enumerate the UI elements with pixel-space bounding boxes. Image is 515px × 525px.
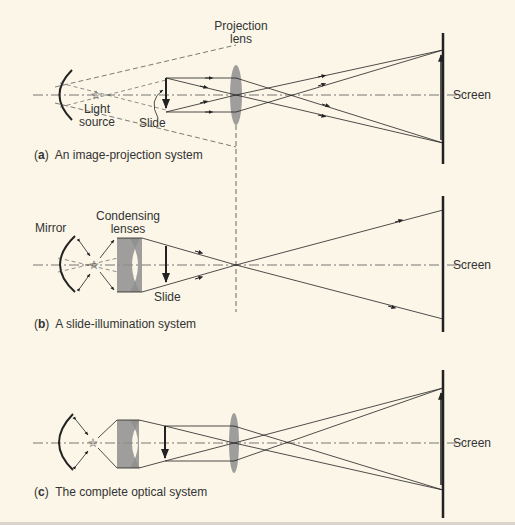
- label-slide: Slide: [139, 117, 166, 130]
- mirror-icon: [60, 236, 75, 292]
- label-projection-lens: Projection lens: [214, 20, 267, 46]
- light-source-star-icon: ☆: [89, 258, 100, 272]
- optics-diagram: ☆ ☆: [0, 0, 515, 525]
- label-condensing-lenses: Condensing lenses: [96, 210, 160, 236]
- caption-b: (b) A slide-illumination system: [34, 317, 196, 331]
- panel-a-diagram: ☆: [33, 33, 466, 164]
- light-source-star-icon: ☆: [91, 88, 102, 102]
- caption-a: (a) An image-projection system: [34, 148, 203, 162]
- label-mirror: Mirror: [35, 222, 66, 235]
- label-screen: Screen: [453, 437, 491, 450]
- mirror-icon: [59, 414, 73, 470]
- optical-system-figure: ☆ ☆: [0, 0, 515, 525]
- label-slide: Slide: [154, 291, 181, 304]
- caption-c: (c) The complete optical system: [34, 485, 207, 499]
- light-source-star-icon: ☆: [88, 436, 99, 450]
- label-screen: Screen: [453, 259, 491, 272]
- label-light-source: Light source: [79, 103, 115, 129]
- label-screen: Screen: [453, 89, 491, 102]
